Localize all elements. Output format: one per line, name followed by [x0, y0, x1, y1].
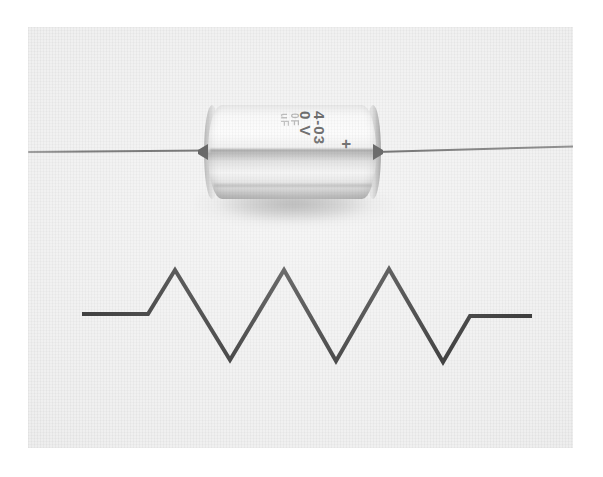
- photograph-plate: 4-03 0 V 0F uF +: [28, 27, 573, 448]
- resistor-schematic-symbol: [28, 27, 573, 448]
- resistor-zigzag-path: [82, 269, 532, 362]
- photo-page: 4-03 0 V 0F uF +: [0, 0, 603, 477]
